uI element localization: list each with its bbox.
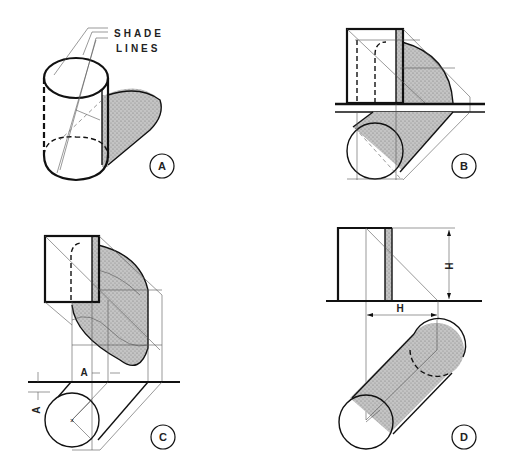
panel-d: H H D [326, 228, 482, 449]
panel-d-dimension-h-vertical: H [443, 262, 454, 269]
panel-c-label: C [159, 431, 167, 443]
panel-b: B [335, 29, 485, 180]
panel-b-plan-shadow [353, 112, 453, 170]
panel-c-dimension-a-vertical: A [31, 406, 42, 413]
shadow-construction-diagram: SHADE LINES A B [0, 0, 514, 472]
shade-lines-leader-2 [83, 32, 108, 55]
panel-b-label: B [460, 160, 468, 172]
panel-a-label: A [158, 160, 166, 172]
panel-c: A A × C [28, 236, 180, 450]
svg-text:×: × [70, 417, 74, 424]
panel-a-top-ellipse [44, 58, 108, 98]
lines-label: LINES [116, 43, 160, 54]
panel-d-elevation-box [338, 228, 392, 301]
panel-a-bottom-arc [44, 155, 108, 180]
panel-c-dimension-a-horizontal: A [80, 367, 87, 378]
shade-lines-leader-1 [54, 28, 108, 75]
panel-d-dimension-h-horizontal: H [396, 303, 403, 314]
panel-c-elevation-shadow [72, 245, 148, 365]
panel-a: SHADE LINES A [44, 28, 174, 180]
shade-label: SHADE [114, 28, 164, 39]
panel-d-label: D [460, 431, 468, 443]
panel-d-shaded-strip [385, 228, 392, 301]
panel-c-elevation-box [45, 236, 99, 302]
